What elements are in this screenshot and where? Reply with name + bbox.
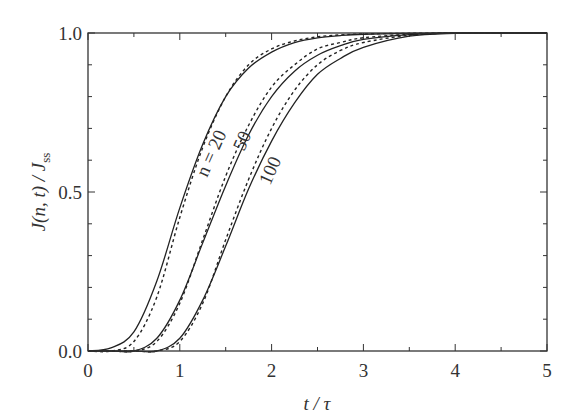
y-tick-label: 1.0 <box>58 23 82 44</box>
curve <box>88 33 547 352</box>
curve <box>88 33 547 352</box>
curve <box>88 33 547 352</box>
plot-frame <box>88 33 547 351</box>
curves <box>88 33 547 352</box>
curve <box>88 33 547 351</box>
y-tick-label: 0.0 <box>58 341 82 362</box>
axis-ticks <box>88 33 547 351</box>
tick-labels: 0123450.00.51.0 <box>58 23 552 381</box>
x-tick-label: 3 <box>359 360 369 381</box>
y-axis-label: J(n, t) / Jss <box>28 153 53 232</box>
x-tick-label: 5 <box>542 360 552 381</box>
curve-label-n50: 50 <box>228 128 255 154</box>
curve-label-n100: 100 <box>254 153 285 188</box>
y-tick-label: 0.5 <box>58 182 82 203</box>
curve-label-n20: n = 20 <box>191 127 230 180</box>
curve <box>88 33 547 352</box>
curve <box>88 33 547 352</box>
x-axis-label: t / τ <box>304 393 332 414</box>
x-tick-label: 4 <box>450 360 460 381</box>
x-tick-label: 0 <box>83 360 93 381</box>
x-tick-label: 2 <box>267 360 277 381</box>
chart: 0123450.00.51.0 t / τ J(n, t) / Jss n = … <box>0 0 573 420</box>
x-tick-label: 1 <box>175 360 185 381</box>
